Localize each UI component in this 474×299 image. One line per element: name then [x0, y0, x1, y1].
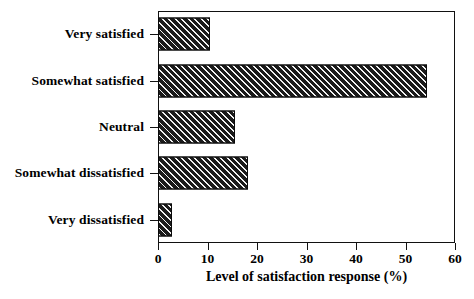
y-axis-tick: [150, 34, 158, 35]
bar-row: [158, 11, 455, 57]
x-axis-tick-label: 60: [448, 251, 462, 267]
x-axis-tick-label: 0: [155, 251, 162, 267]
bar: [158, 110, 235, 143]
y-axis-tick-label: Neutral: [99, 119, 144, 135]
bar: [158, 203, 172, 236]
x-axis-tick: [208, 243, 209, 250]
bar-row: [158, 150, 455, 196]
y-axis-tick-label: Very satisfied: [65, 26, 144, 42]
bar: [158, 157, 248, 190]
bars-layer: [158, 11, 455, 243]
bar-row: [158, 104, 455, 150]
bar: [158, 64, 427, 97]
x-axis-tick: [455, 243, 456, 250]
y-axis-tick: [150, 81, 158, 82]
x-axis-tick-label: 10: [201, 251, 215, 267]
bar-row: [158, 197, 455, 243]
x-axis-tick: [356, 243, 357, 250]
bar-row: [158, 57, 455, 103]
y-axis-tick-label: Very dissatisfied: [48, 212, 144, 228]
x-axis-tick: [257, 243, 258, 250]
y-axis-tick: [150, 173, 158, 174]
x-axis-title: Level of satisfaction response (%): [158, 269, 455, 285]
bar: [158, 18, 210, 51]
y-axis-tick-label: Somewhat dissatisfied: [15, 165, 144, 181]
y-axis-tick: [150, 127, 158, 128]
x-axis-tick-label: 30: [300, 251, 314, 267]
y-axis-tick-label: Somewhat satisfied: [32, 73, 144, 89]
x-axis-tick: [158, 243, 159, 250]
y-axis-tick: [150, 220, 158, 221]
x-axis-tick-label: 50: [399, 251, 413, 267]
x-axis-tick-label: 40: [349, 251, 363, 267]
x-axis-tick: [406, 243, 407, 250]
x-axis-tick-label: 20: [250, 251, 264, 267]
x-axis-tick: [307, 243, 308, 250]
bar-chart: Very satisfiedSomewhat satisfiedNeutralS…: [0, 0, 474, 299]
